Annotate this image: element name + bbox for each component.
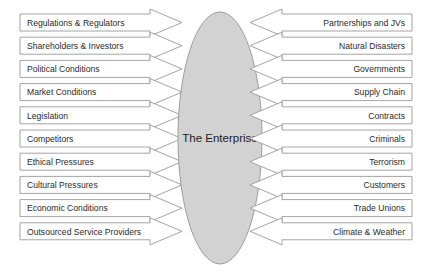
influence-label-left-6: Ethical Pressures bbox=[27, 157, 94, 167]
influence-label-left-2: Political Conditions bbox=[27, 64, 100, 74]
influence-label-right-8: Trade Unions bbox=[354, 203, 405, 213]
diagram-canvas: Regulations & RegulatorsShareholders & I… bbox=[0, 0, 427, 277]
influence-label-right-5: Criminals bbox=[369, 134, 405, 144]
influence-label-right-0: Partnerships and JVs bbox=[323, 18, 405, 28]
left-influences-group: Regulations & RegulatorsShareholders & I… bbox=[20, 9, 182, 245]
enterprise-influences-diagram: Regulations & RegulatorsShareholders & I… bbox=[0, 0, 427, 277]
influence-label-left-3: Market Conditions bbox=[27, 87, 96, 97]
influence-label-left-4: Legislation bbox=[27, 111, 68, 121]
center-enterprise-group: The Enterprise bbox=[178, 12, 262, 264]
influence-label-right-3: Supply Chain bbox=[354, 87, 405, 97]
influence-label-left-8: Economic Conditions bbox=[27, 203, 108, 213]
influence-label-right-2: Governments bbox=[353, 64, 405, 74]
influence-label-right-9: Climate & Weather bbox=[333, 227, 405, 237]
influence-label-right-6: Terrorism bbox=[369, 157, 405, 167]
influence-label-left-1: Shareholders & Investors bbox=[27, 41, 124, 51]
influence-label-right-4: Contracts bbox=[368, 111, 405, 121]
influence-label-right-1: Natural Disasters bbox=[339, 41, 405, 51]
influence-label-left-7: Cultural Pressures bbox=[27, 180, 98, 190]
right-influences-group: Partnerships and JVsNatural DisastersGov… bbox=[250, 9, 412, 245]
influence-label-right-7: Customers bbox=[363, 180, 405, 190]
enterprise-label: The Enterprise bbox=[182, 132, 257, 144]
influence-label-left-5: Competitors bbox=[27, 134, 73, 144]
influence-label-left-0: Regulations & Regulators bbox=[27, 18, 124, 28]
influence-label-left-9: Outsourced Service Providers bbox=[27, 227, 141, 237]
